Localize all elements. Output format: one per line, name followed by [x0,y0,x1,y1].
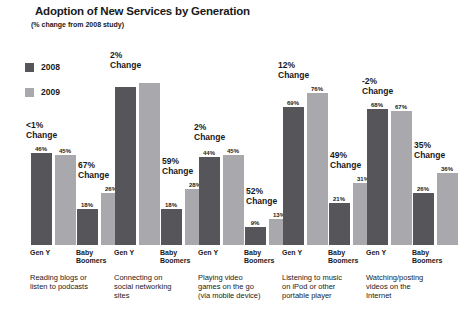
change-word: Change [414,150,445,160]
change-value: 52% [246,186,277,196]
change-value: 2% [194,122,225,132]
x-category-label: Connecting onsocial networkingsites [114,273,206,300]
change-value: 49% [330,150,361,160]
x-subgroup-label: BabyBoomers [412,249,460,265]
bar-2009 [55,155,76,245]
bar-2009 [139,83,160,245]
bar-2008 [161,209,182,245]
x-subgroup-label: Gen Y [30,249,78,257]
x-subgroup-label-line: Boomers [160,257,208,265]
change-annotation: <1%Change [26,120,57,140]
bar-2008 [283,107,304,245]
x-category-label: Listening to musicon iPod or otherportab… [282,273,374,300]
bar-2009 [223,155,244,245]
bar-2008 [199,157,220,245]
change-word: Change [246,196,277,206]
x-category-label-line: Watching/posting [366,273,458,282]
x-subgroup-label-line: Boomers [76,257,124,265]
change-value: 59% [162,156,193,166]
bar-2008 [77,209,98,245]
change-word: Change [362,86,393,96]
x-category-label-line: sites [114,291,206,300]
x-category-label: Watching/postingvideos on theInternet [366,273,458,300]
x-category-label-line: listen to podcasts [30,282,122,291]
bar-2008 [115,87,136,245]
bar-2008 [367,109,388,245]
x-category-label: Reading blogs orlisten to podcasts [30,273,122,291]
bar-2008 [329,203,350,245]
change-word: Change [330,160,361,170]
x-category-label-line: on iPod or other [282,282,374,291]
change-annotation: 2%Change [110,50,141,70]
change-word: Change [162,166,193,176]
bar-value-label: 68% [365,102,389,108]
bar-value-label: 18% [159,202,183,208]
change-value: 12% [278,60,309,70]
change-word: Change [110,60,141,70]
x-category-label-line: Listening to music [282,273,374,282]
bar-2008 [245,227,266,245]
change-annotation: -2%Change [362,76,393,96]
x-subgroup-label: Gen Y [282,249,330,257]
change-value: -2% [362,76,393,86]
change-word: Change [26,130,57,140]
x-subgroup-label-line: Boomers [328,257,376,265]
change-value: 35% [414,140,445,150]
change-value: 67% [78,160,109,170]
bar-2009 [307,93,328,245]
x-category-label-line: Internet [366,291,458,300]
change-value: <1% [26,120,57,130]
bar-2008 [413,193,434,245]
x-category-label-line: (via mobile device) [198,291,290,300]
x-category-label-line: Playing video [198,273,290,282]
bar-value-label: 69% [281,100,305,106]
change-annotation: 52%Change [246,186,277,206]
change-word: Change [78,170,109,180]
change-annotation: 12%Change [278,60,309,80]
change-value: 2% [110,50,141,60]
change-annotation: 49%Change [330,150,361,170]
bar-pair: 26%36%35%Change [410,0,462,246]
bar-value-label: 36% [435,166,459,172]
x-category-label-line: Reading blogs or [30,273,122,282]
bar-value-label: 44% [197,150,221,156]
bar-value-label: 9% [243,220,267,226]
plot-area: 46%45%<1%Change18%26%67%Change2%Change18… [0,0,439,246]
x-category-label-line: videos on the [366,282,458,291]
baseline [18,245,426,246]
x-axis-labels: Gen YBabyBoomersReading blogs orlisten t… [0,249,439,313]
change-word: Change [194,132,225,142]
x-subgroup-label: Gen Y [366,249,414,257]
x-category-label-line: social networking [114,282,206,291]
bar-value-label: 46% [29,146,53,152]
bar-2009 [391,111,412,245]
x-subgroup-label-line: Boomers [244,257,292,265]
x-subgroup-label: Gen Y [114,249,162,257]
x-category-label-line: Connecting on [114,273,206,282]
bar-value-label: 21% [327,196,351,202]
change-annotation: 67%Change [78,160,109,180]
bar-2008 [31,153,52,245]
change-word: Change [278,70,309,80]
bar-2009 [437,173,458,245]
bar-value-label: 18% [75,202,99,208]
change-annotation: 59%Change [162,156,193,176]
x-subgroup-label: Gen Y [198,249,246,257]
x-category-label-line: portable player [282,291,374,300]
change-annotation: 2%Change [194,122,225,142]
change-annotation: 35%Change [414,140,445,160]
x-subgroup-label-line: Boomers [412,257,460,265]
x-subgroup-label-line: Baby [412,249,460,257]
x-category-label: Playing videogames on the go(via mobile … [198,273,290,300]
x-category-label-line: games on the go [198,282,290,291]
bar-value-label: 26% [411,186,435,192]
